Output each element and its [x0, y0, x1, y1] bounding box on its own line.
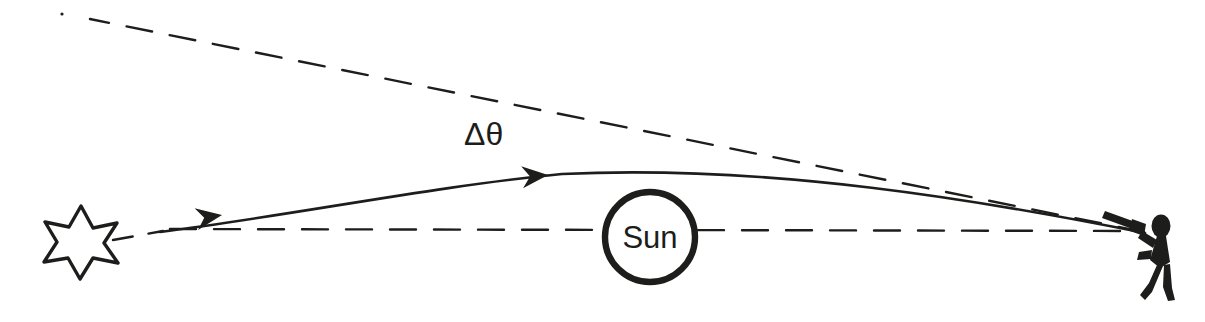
star-icon	[44, 206, 118, 279]
sun-label: Sun	[622, 220, 677, 255]
observer-arm-lower	[1137, 250, 1152, 260]
apparent-direction-dashed-line	[90, 19, 1144, 232]
observer-head	[1152, 215, 1171, 238]
deflection-angle-label: Δθ	[464, 116, 503, 152]
ray-arrowhead-2	[521, 164, 549, 188]
ink-speck	[60, 12, 63, 15]
diagram-canvas: Sun Δθ	[0, 0, 1205, 322]
observer-leg-left	[1140, 265, 1163, 300]
star-to-ray-connector	[113, 231, 163, 240]
gravitational-lensing-diagram: Sun Δθ	[0, 0, 1205, 322]
observer-leg-right	[1163, 264, 1175, 301]
observer-figure	[1102, 211, 1175, 301]
